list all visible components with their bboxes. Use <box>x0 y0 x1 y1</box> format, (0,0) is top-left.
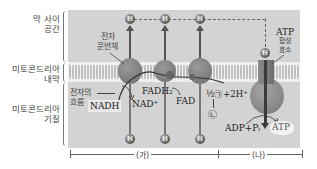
proton-top-1: H <box>125 14 135 24</box>
proton-symbol: H <box>197 135 203 143</box>
arrow-down-to-product <box>213 99 214 108</box>
label-line: ATP <box>276 28 294 37</box>
label-line: 운반체 <box>97 42 118 52</box>
label-product: ㉡ <box>208 108 217 121</box>
label-matrix: 미토콘드리아 기질 <box>2 104 60 124</box>
brace-membrane <box>63 63 67 82</box>
label-line: 미토콘드리아 <box>2 64 60 74</box>
proton-symbol: H <box>197 15 203 23</box>
proton-path-dashed-down <box>265 19 266 47</box>
label-line: 미토콘드리아 <box>2 104 60 114</box>
label-fad: FAD <box>176 96 195 106</box>
proton-symbol: H <box>262 49 268 57</box>
scale-label-a: (가) <box>134 149 151 160</box>
arrow-up-3 <box>199 30 201 58</box>
label-line: 전자 <box>97 32 118 42</box>
proton-top-3: H <box>195 14 205 24</box>
proton-symbol: H <box>127 135 133 143</box>
label-intermembrane-space: 막 사이 공간 <box>2 14 60 34</box>
proton-bottom-1: H <box>125 134 135 144</box>
brace-matrix <box>63 83 67 146</box>
label-electron-carrier: 전자 운반체 <box>97 32 118 52</box>
brace-intermembrane <box>63 11 67 62</box>
scale-label-b: (나) <box>250 149 267 160</box>
label-inner-membrane: 미토콘드리아 내막 <box>2 64 60 84</box>
label-line: 공간 <box>2 24 60 34</box>
carrier-pointer-line <box>108 52 128 66</box>
arrow-up-1 <box>129 30 131 58</box>
label-line: 막 사이 <box>2 14 60 24</box>
scale-tick-right <box>302 150 303 158</box>
proton-symbol: H <box>162 135 168 143</box>
arrow-up-2 <box>164 30 166 60</box>
label-fadh2: FADH₂ <box>142 86 173 96</box>
label-atp-synthase: ATP 합성 효소 <box>276 28 294 55</box>
label-nad-plus: NAD⁺ <box>132 99 158 109</box>
flow-pointer-line <box>97 93 115 94</box>
proton-top-2: H <box>160 14 170 24</box>
channel-3-lower <box>199 84 201 134</box>
synthase-pointer-line <box>270 54 286 66</box>
label-nadh: NADH <box>88 100 121 112</box>
label-line: 기질 <box>2 114 60 124</box>
proton-atp-synthase: H <box>260 48 270 58</box>
label-oxygen-reaction: ½㉠+2H⁺ <box>206 87 248 99</box>
proton-bottom-3: H <box>195 134 205 144</box>
proton-symbol: H <box>162 15 168 23</box>
label-atp-product: ATP <box>272 122 290 132</box>
proton-symbol: H <box>127 15 133 23</box>
label-line: 합성 <box>276 37 294 46</box>
proton-bottom-2: H <box>160 134 170 144</box>
label-line: 전자의 <box>70 88 91 98</box>
label-line: 내막 <box>2 74 60 84</box>
